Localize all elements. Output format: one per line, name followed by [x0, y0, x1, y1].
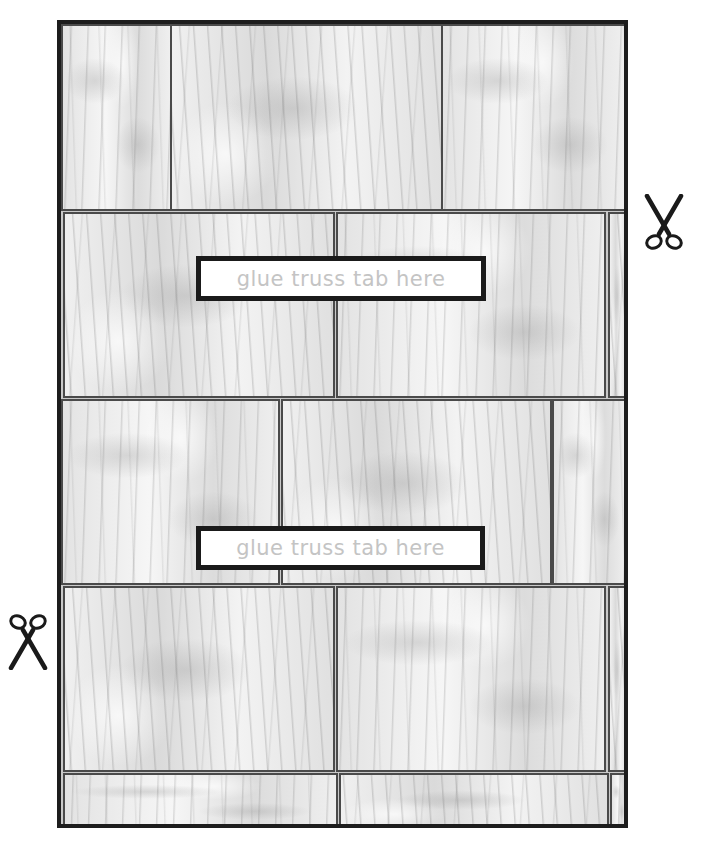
plank-row1-3 — [441, 24, 626, 211]
glue-label-top: glue truss tab here — [196, 256, 486, 301]
glue-label-bottom: glue truss tab here — [196, 526, 485, 570]
glue-label-text: glue truss tab here — [237, 267, 446, 291]
plank-row2-1 — [63, 212, 335, 398]
plank-row5-3 — [610, 773, 628, 828]
wood-texture-sheet — [57, 20, 628, 828]
scissors-icon — [6, 610, 50, 670]
plank-row1-2 — [170, 24, 443, 211]
plank-row4-3 — [608, 586, 628, 772]
plank-row5-1 — [63, 773, 338, 828]
scissors-icon — [642, 194, 686, 254]
plank-row4-1 — [63, 586, 335, 772]
plank-row2-3 — [608, 212, 628, 398]
plank-row4-2 — [336, 586, 606, 772]
plank-row5-2 — [339, 773, 609, 828]
plank-row1-1 — [61, 24, 172, 211]
glue-label-text: glue truss tab here — [236, 536, 445, 560]
plank-row2-2 — [336, 212, 606, 398]
plank-row3-3 — [552, 399, 628, 585]
